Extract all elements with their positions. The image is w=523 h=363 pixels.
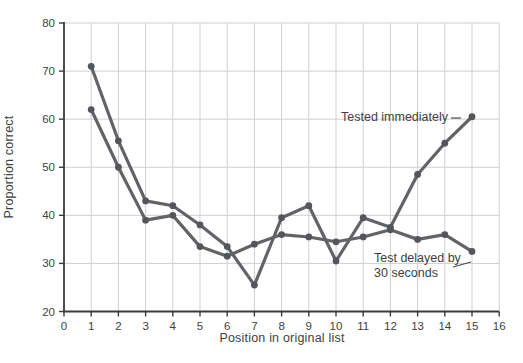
y-tick-label: 20 bbox=[42, 306, 55, 318]
data-point-marker bbox=[441, 140, 448, 147]
x-tick-label: 0 bbox=[61, 320, 67, 332]
y-tick-label: 80 bbox=[42, 17, 55, 29]
data-point-marker bbox=[387, 226, 394, 233]
data-point-marker bbox=[469, 248, 476, 255]
data-point-marker bbox=[224, 253, 231, 260]
data-point-marker bbox=[169, 202, 176, 209]
data-point-marker bbox=[333, 258, 340, 265]
y-axis-title: Proportion correct bbox=[2, 97, 16, 237]
data-point-marker bbox=[305, 234, 312, 241]
data-point-marker bbox=[469, 113, 476, 120]
x-tick-label: 11 bbox=[357, 320, 369, 332]
data-point-marker bbox=[115, 164, 122, 171]
data-point-marker bbox=[142, 198, 149, 205]
x-axis-title: Position in original list bbox=[64, 331, 500, 345]
data-point-marker bbox=[278, 231, 285, 238]
data-point-marker bbox=[333, 238, 340, 245]
data-point-marker bbox=[169, 212, 176, 219]
data-point-marker bbox=[142, 217, 149, 224]
x-tick-label: 13 bbox=[411, 320, 424, 332]
data-point-marker bbox=[305, 202, 312, 209]
data-point-marker bbox=[251, 282, 258, 289]
data-point-marker bbox=[278, 214, 285, 221]
x-tick-label: 9 bbox=[306, 320, 312, 332]
x-tick-label: 2 bbox=[115, 320, 121, 332]
x-tick-label: 4 bbox=[170, 320, 177, 332]
annotation-tested-immediately: Tested immediately bbox=[341, 110, 448, 125]
data-point-marker bbox=[197, 222, 204, 229]
data-point-marker bbox=[224, 243, 231, 250]
y-tick-label: 50 bbox=[42, 161, 55, 173]
annotation-test-delayed-line1: Test delayed by bbox=[374, 251, 461, 266]
x-tick-label: 3 bbox=[142, 320, 148, 332]
data-point-marker bbox=[88, 63, 95, 70]
y-tick-label: 60 bbox=[42, 113, 55, 125]
x-tick-label: 8 bbox=[278, 320, 284, 332]
x-tick-label: 6 bbox=[224, 320, 230, 332]
y-tick-label: 40 bbox=[42, 209, 55, 221]
annotation-test-delayed: Test delayed by 30 seconds bbox=[374, 251, 461, 281]
x-tick-label: 7 bbox=[251, 320, 257, 332]
y-tick-label: 70 bbox=[42, 65, 55, 77]
data-point-marker bbox=[360, 234, 367, 241]
serial-position-chart: 20304050607080012345678910111213141516 bbox=[0, 0, 523, 363]
data-point-marker bbox=[414, 236, 421, 243]
annotation-test-delayed-line2: 30 seconds bbox=[374, 266, 461, 281]
data-point-marker bbox=[360, 214, 367, 221]
data-point-marker bbox=[88, 106, 95, 113]
x-tick-label: 14 bbox=[438, 320, 451, 332]
x-tick-label: 1 bbox=[88, 320, 94, 332]
x-tick-label: 16 bbox=[493, 320, 506, 332]
data-point-marker bbox=[414, 171, 421, 178]
data-point-marker bbox=[441, 231, 448, 238]
x-tick-label: 15 bbox=[466, 320, 479, 332]
data-point-marker bbox=[197, 243, 204, 250]
x-tick-label: 12 bbox=[384, 320, 397, 332]
x-tick-label: 10 bbox=[330, 320, 343, 332]
x-tick-label: 5 bbox=[197, 320, 203, 332]
serial-position-figure: 20304050607080012345678910111213141516 P… bbox=[0, 0, 523, 363]
data-point-marker bbox=[251, 241, 258, 248]
y-tick-label: 30 bbox=[42, 257, 55, 269]
data-point-marker bbox=[115, 137, 122, 144]
